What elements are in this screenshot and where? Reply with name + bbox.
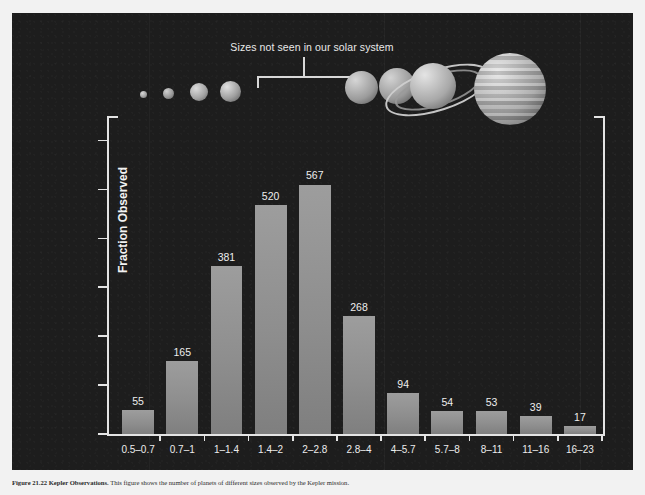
x-axis-tick <box>380 434 382 441</box>
bar <box>343 316 375 434</box>
x-axis-tick-label: 0.5–0.7 <box>116 444 160 455</box>
bar <box>520 416 552 434</box>
caption-lead: Figure 21.22 <box>12 479 47 486</box>
x-axis-tick <box>204 434 206 441</box>
chart-plot-area: Fraction Observed Planet Size (Earth = 1… <box>107 103 605 436</box>
bar-value-label: 55 <box>116 395 160 407</box>
bar-value-label: 165 <box>160 346 204 358</box>
bar-value-label: 520 <box>249 190 293 202</box>
annotation-label: Sizes not seen in our solar system <box>202 41 422 53</box>
bar <box>166 361 198 434</box>
bar <box>387 393 419 434</box>
y-axis-tick <box>98 238 107 240</box>
x-axis-tick <box>557 434 559 441</box>
x-axis-tick-label: 0.7–1 <box>160 444 204 455</box>
x-axis-tick-label: 5.7–8 <box>425 444 469 455</box>
bar-value-label: 94 <box>381 378 425 390</box>
y-axis-tick <box>98 286 107 288</box>
x-axis-tick-label: 2.8–4 <box>337 444 381 455</box>
x-axis-tick <box>248 434 250 441</box>
planet-mercury-icon <box>140 91 147 98</box>
planet-earth-icon <box>220 81 241 102</box>
x-axis-tick <box>601 434 603 441</box>
y-axis-tick <box>98 433 107 435</box>
x-axis-tick <box>292 434 294 441</box>
y-axis-tick <box>98 384 107 386</box>
caption-title: Kepler Observations. <box>49 479 109 486</box>
bar-value-label: 17 <box>558 411 602 423</box>
bar-value-label: 268 <box>337 301 381 313</box>
bar <box>299 185 331 435</box>
bar <box>211 266 243 434</box>
x-axis-tick-label: 16–23 <box>558 444 602 455</box>
y-axis-tick <box>98 189 107 191</box>
bar-value-label: 567 <box>293 169 337 181</box>
figure-caption: Figure 21.22 Kepler Observations. This f… <box>12 478 633 492</box>
bar <box>255 205 287 434</box>
x-axis-line <box>107 434 605 436</box>
x-axis-tick <box>469 434 471 441</box>
planet-uranus-icon <box>345 71 378 104</box>
x-axis-tick-label: 2–2.8 <box>293 444 337 455</box>
bar-value-label: 39 <box>514 401 558 413</box>
y-axis-title: Fraction Observed <box>116 140 130 300</box>
planet-venus-icon <box>190 83 208 101</box>
x-axis-tick <box>424 434 426 441</box>
bar <box>564 426 596 434</box>
x-axis-tick-label: 11–16 <box>514 444 558 455</box>
y-axis-tick <box>98 140 107 142</box>
x-axis-tick-label: 4–5.7 <box>381 444 425 455</box>
bar <box>431 411 463 434</box>
figure-panel: Sizes not seen in our solar system <box>12 13 633 470</box>
x-axis-tick-label: 1–1.4 <box>204 444 248 455</box>
plot-top-left-cap <box>109 116 118 118</box>
bar <box>122 410 154 434</box>
bar-value-label: 54 <box>425 396 469 408</box>
y-axis-line <box>107 116 109 436</box>
caption-body: This figure shows the number of planets … <box>110 479 349 486</box>
plot-right-border <box>603 116 605 436</box>
x-axis-tick <box>513 434 515 441</box>
bar <box>476 411 508 434</box>
bar-value-label: 381 <box>204 251 248 263</box>
plot-top-right-cap <box>594 116 603 118</box>
bar-value-label: 53 <box>469 396 513 408</box>
x-axis-tick-label: 8–11 <box>469 444 513 455</box>
x-axis-tick <box>336 434 338 441</box>
x-axis-title: Planet Size (Earth = 1) <box>107 468 605 470</box>
page-root: Sizes not seen in our solar system <box>0 0 645 495</box>
planet-mars-icon <box>163 88 174 99</box>
y-axis-tick <box>98 335 107 337</box>
x-axis-tick-label: 1.4–2 <box>249 444 293 455</box>
x-axis-tick <box>159 434 161 441</box>
